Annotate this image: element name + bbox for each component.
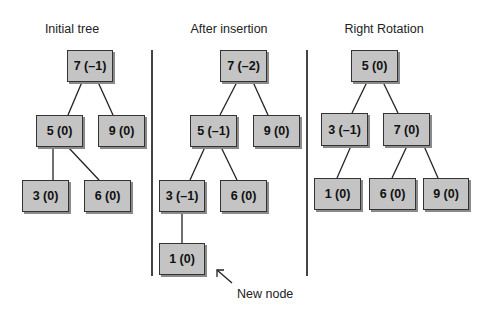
tree-edge bbox=[221, 147, 237, 180]
tree-edge bbox=[392, 146, 407, 178]
tree-node-7: 7 (–1) bbox=[67, 50, 113, 82]
tree-edge bbox=[190, 147, 205, 180]
panel-title-after-insertion: After insertion bbox=[190, 22, 267, 36]
tree-node-1: 1 (0) bbox=[314, 178, 361, 210]
tree-node-3: 3 (–1) bbox=[159, 180, 205, 212]
panel-divider bbox=[151, 50, 153, 276]
tree-node-3: 3 (–1) bbox=[321, 113, 368, 146]
tree-node-5: 5 (–1) bbox=[190, 115, 237, 147]
tree-node-9: 9 (0) bbox=[423, 178, 469, 210]
tree-node-6: 6 (0) bbox=[220, 180, 267, 212]
tree-node-6: 6 (0) bbox=[369, 178, 416, 210]
tree-node-9: 9 (0) bbox=[253, 115, 300, 147]
tree-node-6: 6 (0) bbox=[84, 180, 131, 212]
tree-edge bbox=[352, 82, 367, 113]
tree-node-5: 5 (0) bbox=[351, 50, 398, 82]
tree-edge bbox=[220, 82, 237, 115]
arrow-icon bbox=[217, 270, 232, 283]
tree-edges bbox=[0, 0, 489, 315]
panel-title-initial-tree: Initial tree bbox=[45, 22, 99, 36]
tree-edge bbox=[68, 82, 82, 115]
tree-edge bbox=[68, 147, 99, 180]
panel-divider bbox=[306, 50, 308, 276]
tree-edge bbox=[383, 82, 398, 113]
tree-node-7: 7 (0) bbox=[383, 113, 430, 146]
tree-node-5: 5 (0) bbox=[36, 115, 83, 147]
tree-node-3: 3 (0) bbox=[22, 180, 69, 212]
new-node-caption: New node bbox=[237, 287, 293, 301]
tree-node-1-new: 1 (0) bbox=[159, 243, 205, 275]
panel-title-right-rotation: Right Rotation bbox=[344, 22, 423, 36]
tree-node-9: 9 (0) bbox=[98, 115, 145, 147]
tree-edge bbox=[98, 82, 113, 115]
tree-edge bbox=[424, 146, 438, 178]
tree-edge bbox=[337, 146, 351, 178]
tree-node-7: 7 (–2) bbox=[220, 50, 267, 82]
tree-edge bbox=[253, 82, 268, 115]
